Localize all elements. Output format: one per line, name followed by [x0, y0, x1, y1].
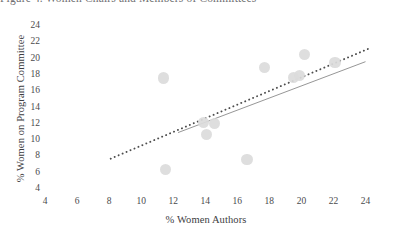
- figure-caption: Figure 4. Women Chairs and Members of Co…: [0, 0, 412, 5]
- x-tick-label: 24: [354, 196, 378, 206]
- x-tick-label: 18: [257, 196, 281, 206]
- y-tick-label: 20: [18, 53, 40, 63]
- y-tick-label: 14: [18, 102, 40, 112]
- data-point: [158, 72, 169, 83]
- x-axis-title: % Women Authors: [0, 214, 412, 225]
- x-tick-label: 14: [193, 196, 217, 206]
- figure-caption-text: Figure 4. Women Chairs and Members of Co…: [0, 0, 412, 5]
- data-point: [209, 118, 220, 129]
- x-tick-label: 12: [161, 196, 185, 206]
- x-tick-label: 6: [65, 196, 89, 206]
- x-tick-label: 4: [33, 196, 57, 206]
- y-tick-label: 12: [18, 118, 40, 128]
- y-tick-label: 24: [18, 20, 40, 30]
- x-tick-label: 16: [225, 196, 249, 206]
- x-tick-label: 20: [289, 196, 313, 206]
- x-tick-label: 22: [321, 196, 345, 206]
- data-point: [294, 70, 305, 81]
- data-point: [241, 154, 252, 165]
- data-point: [299, 49, 310, 60]
- data-point: [259, 62, 270, 73]
- chart-figure: Figure 4. Women Chairs and Members of Co…: [0, 0, 412, 238]
- x-tick-label: 10: [129, 196, 153, 206]
- y-tick-label: 22: [18, 36, 40, 46]
- data-point: [329, 57, 340, 68]
- y-tick-label: 8: [18, 150, 40, 160]
- x-tick-label: 8: [97, 196, 121, 206]
- y-tick-label: 6: [18, 167, 40, 177]
- y-tick-label: 18: [18, 69, 40, 79]
- data-point: [201, 129, 212, 140]
- y-tick-label: 4: [18, 183, 40, 193]
- y-tick-label: 16: [18, 85, 40, 95]
- data-point: [160, 164, 171, 175]
- y-tick-label: 10: [18, 134, 40, 144]
- data-point: [198, 117, 209, 128]
